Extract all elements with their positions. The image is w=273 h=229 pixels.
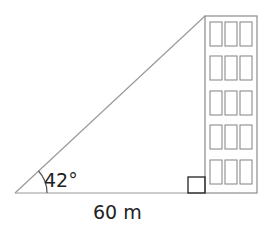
diagram-canvas: 42° 60 m (0, 0, 273, 229)
right-angle-marker (188, 177, 205, 193)
distance-label: 60 m (93, 201, 142, 223)
angle-label: 42° (44, 169, 78, 191)
hypotenuse-line (15, 16, 205, 193)
building (205, 16, 257, 193)
